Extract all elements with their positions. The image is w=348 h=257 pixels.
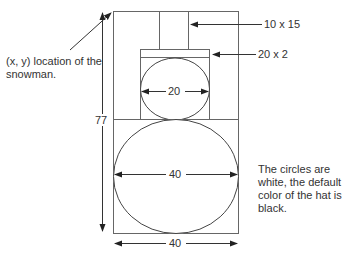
snowman-diagram xyxy=(0,0,348,257)
location-label: (x, y) location of the snowman. xyxy=(6,55,102,81)
note-line-1: The circles are xyxy=(258,163,342,176)
location-label-line-2: snowman. xyxy=(6,68,102,81)
note-label: The circles are white, the default color… xyxy=(258,163,342,215)
body-width-label: 40 xyxy=(167,168,183,180)
note-line-2: white, the default xyxy=(258,176,342,189)
note-line-3: color of the hat is xyxy=(258,189,342,202)
hat-brim xyxy=(141,50,210,58)
hat-stem-label: 10 x 15 xyxy=(264,18,300,31)
location-label-line-1: (x, y) location of the xyxy=(6,55,102,68)
height-label: 77 xyxy=(93,114,109,126)
location-pointer xyxy=(70,13,111,50)
head-width-label: 20 xyxy=(166,85,182,97)
note-line-4: black. xyxy=(258,202,342,215)
hat-brim-label: 20 x 2 xyxy=(258,48,288,61)
hat-stem xyxy=(160,12,189,50)
box-width-label: 40 xyxy=(167,237,183,249)
